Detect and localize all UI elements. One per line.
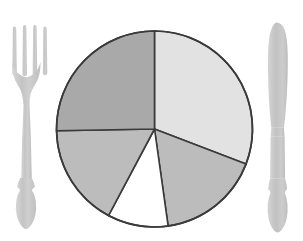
knife-handle-end xyxy=(268,179,288,233)
fork-tine-3 xyxy=(33,25,38,76)
knife-icon xyxy=(268,23,288,233)
fork-tine-4 xyxy=(43,26,48,75)
knife-blade xyxy=(268,23,288,128)
fork-icon xyxy=(12,25,47,229)
fork-neck xyxy=(22,100,31,136)
figure-canvas: Dinner plate pie chart with fork and kni… xyxy=(0,0,303,241)
knife-bolster xyxy=(271,128,285,137)
knife-handle-shaft xyxy=(270,137,285,179)
plate-and-cutlery-illustration xyxy=(0,0,303,241)
fork-tine-2 xyxy=(22,25,27,76)
plate-pie-chart xyxy=(56,31,252,227)
pie-slice-left[interactable] xyxy=(56,31,154,131)
fork-handle-shaft xyxy=(21,136,32,178)
fork-handle-end xyxy=(16,178,36,229)
